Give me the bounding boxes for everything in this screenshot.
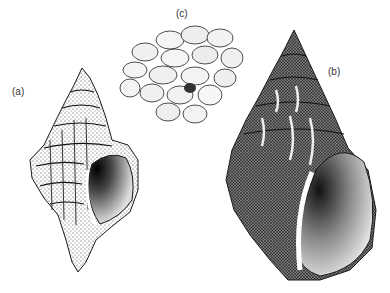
label-b: (b) (328, 66, 340, 77)
shell-a-ribbed-whelk (30, 68, 138, 272)
shell-b-smooth-whelk (226, 30, 376, 280)
illustration-canvas (0, 0, 390, 293)
label-c: (c) (176, 8, 188, 19)
egg-capsule-cluster (120, 26, 243, 123)
label-a: (a) (12, 86, 24, 97)
